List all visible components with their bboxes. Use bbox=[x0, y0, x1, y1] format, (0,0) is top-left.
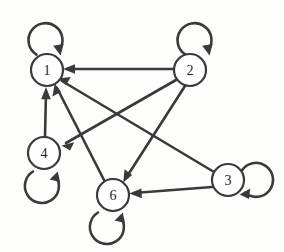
edge-3-to-6 bbox=[129, 187, 212, 198]
directed-graph-figure: 1 2 3 4 6 bbox=[0, 0, 284, 252]
edge-2-to-4-line bbox=[66, 80, 176, 143]
edge-6-to-1 bbox=[52, 84, 104, 181]
node-1[interactable]: 1 bbox=[31, 54, 63, 86]
edge-4-to-1 bbox=[41, 87, 51, 137]
self-loop-node-2 bbox=[177, 23, 212, 55]
self-loop-node-4-arrowhead bbox=[50, 171, 60, 182]
edge-3-to-1 bbox=[58, 77, 214, 172]
edge-2-to-1-arrowhead bbox=[63, 64, 75, 74]
self-loop-node-4 bbox=[25, 171, 60, 203]
node-1-label: 1 bbox=[44, 63, 51, 78]
node-3-label: 3 bbox=[225, 173, 232, 188]
edge-4-to-1-arrowhead bbox=[41, 87, 51, 99]
edge-2-to-6-line bbox=[126, 86, 185, 178]
node-3[interactable]: 3 bbox=[212, 164, 244, 196]
node-2-label: 2 bbox=[187, 63, 194, 78]
edge-3-to-6-arrowhead bbox=[129, 189, 142, 199]
edge-2-to-1 bbox=[63, 64, 174, 74]
edge-3-to-6-line bbox=[134, 187, 212, 193]
self-loop-node-6 bbox=[90, 212, 125, 244]
edge-2-to-6 bbox=[123, 86, 185, 182]
self-loop-node-1 bbox=[28, 23, 63, 55]
node-6-label: 6 bbox=[110, 188, 117, 203]
self-loop-node-1-arrowhead bbox=[53, 44, 63, 56]
node-6[interactable]: 6 bbox=[97, 179, 129, 211]
self-loop-node-6-arrowhead bbox=[115, 212, 125, 223]
node-2[interactable]: 2 bbox=[174, 54, 206, 86]
graph-canvas: 1 2 3 4 6 bbox=[0, 0, 284, 252]
node-4-label: 4 bbox=[41, 146, 48, 161]
self-loop-node-2-arrowhead bbox=[202, 44, 212, 56]
node-4[interactable]: 4 bbox=[28, 137, 60, 169]
